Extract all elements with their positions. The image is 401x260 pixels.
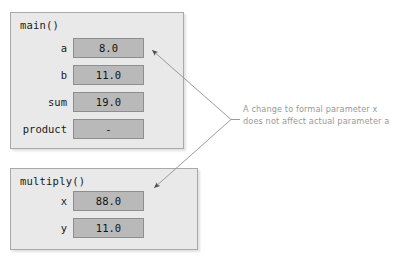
variable-value-x: 88.0 [73, 191, 144, 211]
variable-row-a: a 8.0 [17, 38, 144, 58]
annotation-line-2: does not affect actual parameter a [243, 116, 401, 128]
variable-label-sum: sum [17, 96, 73, 108]
variable-row-b: b 11.0 [17, 65, 144, 85]
variable-label-x: x [17, 195, 73, 207]
multiply-frame: multiply() x 88.0 y 11.0 [10, 168, 198, 250]
variable-row-x: x 88.0 [17, 191, 144, 211]
variable-label-b: b [17, 69, 73, 81]
annotation-caption: A change to formal parameter x does not … [243, 104, 401, 127]
variable-value-sum: 19.0 [73, 92, 144, 112]
variable-label-a: a [17, 42, 73, 54]
diagram-canvas: main() a 8.0 b 11.0 sum 19.0 product - m… [0, 0, 401, 260]
variable-row-y: y 11.0 [17, 218, 144, 238]
annotation-line-1: A change to formal parameter x [243, 104, 401, 116]
variable-label-y: y [17, 222, 73, 234]
main-frame: main() a 8.0 b 11.0 sum 19.0 product - [10, 12, 184, 149]
variable-row-product: product - [17, 119, 144, 139]
multiply-frame-title: multiply() [20, 175, 85, 187]
variable-value-y: 11.0 [73, 218, 144, 238]
variable-value-product: - [73, 119, 144, 139]
variable-value-a: 8.0 [73, 38, 144, 58]
main-frame-title: main() [20, 19, 59, 31]
variable-value-b: 11.0 [73, 65, 144, 85]
variable-label-product: product [17, 123, 73, 135]
variable-row-sum: sum 19.0 [17, 92, 144, 112]
